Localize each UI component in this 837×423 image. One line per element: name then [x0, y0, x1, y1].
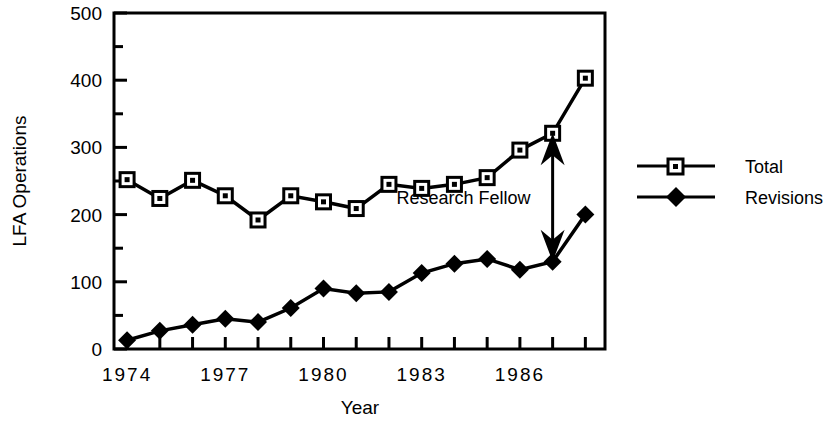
y-tick-label: 300: [70, 137, 102, 158]
data-point-total-center: [256, 217, 261, 222]
annotation-label: Research Fellow: [397, 188, 532, 208]
data-point-total-center: [125, 177, 130, 182]
x-axis-tick-labels: 19741977198019831986: [102, 364, 545, 385]
data-point-total-center: [452, 182, 457, 187]
data-point-total-center: [190, 178, 195, 183]
y-tick-label: 200: [70, 205, 102, 226]
x-tick-label: 1974: [102, 364, 152, 385]
x-axis-title: Year: [341, 397, 380, 418]
data-point-total-center: [386, 182, 391, 187]
y-tick-label: 100: [70, 272, 102, 293]
data-point-total-center: [223, 193, 228, 198]
y-axis-tick-labels: 0100200300400500: [70, 3, 102, 360]
chart-figure: 0100200300400500 19741977198019831986 LF…: [0, 0, 837, 423]
y-tick-label: 400: [70, 70, 102, 91]
legend-label-total: Total: [745, 157, 783, 177]
filled-diamond-marker-icon: [666, 187, 686, 207]
data-point-total-center: [321, 199, 326, 204]
legend-entry-total: Total: [637, 157, 783, 177]
y-tick-label: 500: [70, 3, 102, 24]
y-axis-title: LFA Operations: [9, 116, 30, 247]
data-point-total-center: [583, 76, 588, 81]
data-point-total-center: [485, 175, 490, 180]
legend-label-revisions: Revisions: [745, 188, 823, 208]
data-point-total-center: [288, 193, 293, 198]
data-point-total-center: [157, 196, 162, 201]
legend-entry-revisions: Revisions: [637, 187, 823, 208]
open-square-marker-center-icon: [673, 164, 678, 169]
x-tick-label: 1980: [298, 364, 348, 385]
chart-legend: Total Revisions: [637, 157, 823, 208]
x-tick-label: 1986: [495, 364, 545, 385]
y-tick-label: 0: [91, 339, 102, 360]
data-point-total-center: [354, 206, 359, 211]
x-tick-label: 1983: [397, 364, 447, 385]
data-point-total-center: [517, 148, 522, 153]
line-chart: 0100200300400500 19741977198019831986 LF…: [0, 0, 837, 423]
x-tick-label: 1977: [200, 364, 250, 385]
